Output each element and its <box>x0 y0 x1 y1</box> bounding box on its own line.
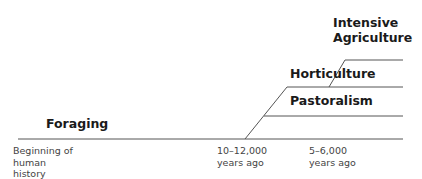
stage-foraging: Foraging <box>46 116 108 131</box>
time-label-beginning: Beginning of human history <box>13 145 73 179</box>
time-label-5-6000: 5–6,000 years ago <box>309 145 356 168</box>
stage-pastoralism: Pastoralism <box>290 93 373 108</box>
time-label-10-12000: 10–12,000 years ago <box>217 145 267 168</box>
stage-horticulture: Horticulture <box>290 66 376 81</box>
stage-intensive-agriculture: Intensive Agriculture <box>333 15 412 45</box>
